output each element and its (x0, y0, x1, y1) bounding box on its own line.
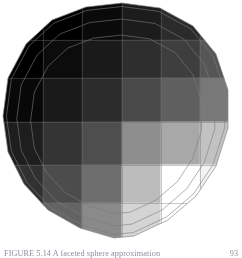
polyhedral-sphere-render (0, 0, 242, 258)
figure-caption: FIGURE 5.14 A faceted sphere approximati… (4, 250, 238, 258)
page-number: 93 (230, 250, 238, 258)
caption-label: FIGURE 5.14 A faceted sphere approximati… (4, 250, 238, 258)
figure-container: FIGURE 5.14 A faceted sphere approximati… (0, 0, 242, 258)
